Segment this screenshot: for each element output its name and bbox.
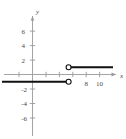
x-axis-arrow: [112, 73, 117, 77]
y-axis-arrow: [31, 16, 35, 21]
x-axis-label: x: [119, 72, 124, 80]
y-axis-label: y: [35, 8, 40, 16]
step-function-plot: 6 4 2 -2 -4 -6 8 10 y x: [0, 0, 126, 139]
plot-svg: 6 4 2 -2 -4 -6 8 10 y x: [0, 0, 126, 139]
y-tick-label-6: 6: [22, 28, 26, 36]
y-tick-label-2: 2: [22, 57, 26, 65]
x-tick-label-8: 8: [84, 80, 88, 88]
lower-branch-open-endpoint: [66, 79, 71, 84]
y-tick-label-neg6: -6: [21, 115, 27, 123]
x-tick-label-10: 10: [96, 80, 104, 88]
y-tick-label-neg4: -4: [21, 100, 27, 108]
upper-branch-open-endpoint: [66, 65, 71, 70]
y-tick-label-4: 4: [22, 42, 26, 50]
y-tick-label-neg2: -2: [21, 86, 27, 94]
